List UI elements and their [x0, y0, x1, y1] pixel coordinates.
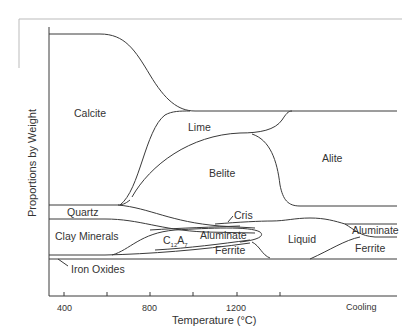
label-ferrite-2: Ferrite	[355, 242, 385, 254]
tick-label-800: 800	[142, 303, 157, 313]
clinker-phase-diagram: Calcite Lime Belite Alite Quartz Cris Cl…	[0, 0, 418, 330]
quartz-top	[49, 200, 130, 205]
label-iron-oxides: Iron Oxides	[71, 263, 125, 275]
ferrite-liquid-boundary-right	[310, 237, 360, 259]
label-lime: Lime	[188, 121, 211, 133]
label-quartz: Quartz	[67, 206, 99, 218]
y-axis-label: Proportions by Weight	[26, 109, 38, 217]
label-calcite: Calcite	[74, 107, 106, 119]
tick-label-400: 400	[57, 303, 72, 313]
label-aluminate-1: Aluminate	[200, 229, 247, 241]
lime-upper-boundary	[120, 111, 190, 205]
label-alite: Alite	[322, 152, 343, 164]
tick-label-cooling: Cooling	[346, 302, 377, 312]
iron-oxides-pointer	[58, 259, 68, 266]
label-ferrite-1: Ferrite	[215, 244, 245, 256]
tick-label-1200: 1200	[226, 303, 246, 313]
label-aluminate-2: Aluminate	[352, 224, 399, 236]
label-clay-minerals: Clay Minerals	[55, 230, 119, 242]
label-cris: Cris	[234, 209, 253, 221]
x-axis-label: Temperature (°C)	[172, 314, 256, 326]
label-liquid: Liquid	[288, 233, 316, 245]
calcite-boundary	[49, 34, 397, 111]
x-ticks	[64, 292, 280, 296]
ferrite-liquid-boundary-left	[252, 242, 270, 258]
label-belite: Belite	[209, 167, 235, 179]
cris-pointer	[228, 216, 233, 222]
label-c12a7: C12A7	[163, 234, 188, 248]
belite-alite-boundary	[252, 134, 397, 206]
lime-belite-boundary	[132, 111, 292, 197]
